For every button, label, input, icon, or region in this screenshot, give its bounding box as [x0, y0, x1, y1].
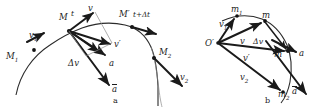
label-vector-vprime-b: v′: [243, 54, 250, 63]
vector-vprime-tangent-a: [132, 27, 156, 34]
label-point-M1: M1: [6, 52, 18, 63]
label-vector-a-bar-b: a: [292, 87, 297, 96]
label-vector-v-b: v: [240, 37, 245, 46]
vector-a-a: [69, 31, 105, 55]
label-time-t: t: [71, 10, 74, 18]
caption-panel-b: b: [265, 97, 270, 105]
label-vector-delta-v-b: Δv: [253, 38, 263, 46]
label-point-Mprime: M′: [119, 10, 130, 19]
point-M1-marker: [32, 48, 36, 52]
label-origin-Oprime: O′: [205, 39, 214, 48]
vector-vprime-a: [69, 31, 110, 44]
label-point-m: m: [262, 11, 270, 20]
label-vector-a-b: a: [299, 49, 304, 58]
label-vector-vprime-a: v′: [114, 40, 121, 49]
label-vector-v1-a: v1: [29, 31, 37, 42]
physics-figure: M1 M t M′ t+Δt M2 v1 v v′ Δv a a v2 a O′: [0, 0, 318, 108]
label-vector-v2-b: v2: [240, 73, 248, 84]
label-vector-v-a: v: [88, 4, 93, 13]
label-time-t-plus-delta-t: t+Δt: [133, 11, 150, 18]
label-vector-v2-a: v2: [180, 73, 188, 84]
label-point-mprime: m′: [274, 50, 284, 59]
label-vector-a-bar-a: a: [112, 85, 117, 94]
label-vector-delta-v-a: Δv: [68, 59, 79, 68]
label-point-m1: m1: [231, 5, 243, 16]
label-vector-v1-b: v1: [219, 20, 227, 31]
label-point-M2: M2: [159, 48, 171, 59]
caption-panel-a: a: [113, 97, 118, 105]
label-point-M: M: [59, 13, 68, 22]
construction-line-v-to-vprime: [95, 12, 112, 43]
label-point-m2: m2: [278, 90, 290, 101]
label-vector-a-a: a: [109, 59, 114, 68]
panel-a-trajectory-group: [16, 12, 182, 107]
